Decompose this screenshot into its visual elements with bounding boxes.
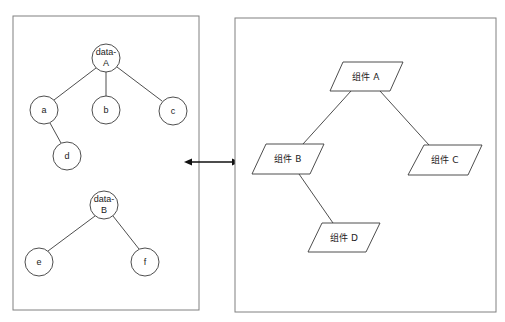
tree-node-b[interactable]: b: [92, 96, 120, 124]
tree-node-c[interactable]: c: [159, 97, 187, 125]
node-label-line2: A: [103, 58, 109, 68]
node-label: e: [36, 257, 41, 267]
right-panel: 组件 A 组件 B 组件 C 组件 D: [235, 18, 496, 312]
node-label: b: [103, 105, 108, 115]
tree-node-data-a[interactable]: data- A: [92, 44, 120, 72]
node-label: a: [41, 105, 46, 115]
tree-node-e[interactable]: e: [25, 248, 53, 276]
left-panel: data- A a b c d data- B: [13, 16, 199, 310]
component-label: 组件 A: [352, 71, 380, 82]
node-label-line1: data-: [94, 194, 115, 204]
diagram-canvas: data- A a b c d data- B: [0, 0, 505, 322]
tree-node-data-b[interactable]: data- B: [90, 191, 118, 219]
node-label: d: [64, 151, 69, 161]
tree-node-d[interactable]: d: [53, 142, 81, 170]
node-label-line1: data-: [96, 47, 117, 57]
tree-node-f[interactable]: f: [131, 248, 159, 276]
node-label-line2: B: [101, 205, 107, 215]
component-label: 组件 B: [274, 153, 301, 164]
tree-node-a[interactable]: a: [30, 96, 58, 124]
component-label: 组件 C: [431, 154, 458, 165]
node-label: c: [171, 106, 176, 116]
component-a[interactable]: 组件 A: [330, 62, 403, 91]
component-label: 组件 D: [330, 232, 358, 243]
